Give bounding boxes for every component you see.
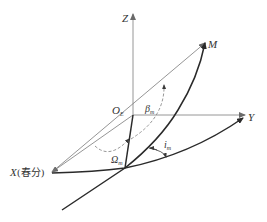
omega-label: Ωm <box>111 154 123 166</box>
z-axis-label: Z <box>122 12 129 24</box>
inclination-label: im <box>164 139 172 151</box>
y-axis-label: Y <box>248 111 256 123</box>
omega-angle-arc <box>95 139 129 152</box>
origin-label: OE <box>112 104 124 117</box>
beta-label: βm <box>144 103 155 115</box>
celestial-coordinate-diagram: Z Y X(春分) M OE βm Ωm im <box>0 0 267 222</box>
inclination-angle-arc-back <box>150 148 157 150</box>
vector-om-line <box>52 43 205 172</box>
point-m-label: M <box>207 38 218 50</box>
x-axis-label: X(春分) <box>9 166 45 178</box>
orbit-arc <box>62 43 205 210</box>
